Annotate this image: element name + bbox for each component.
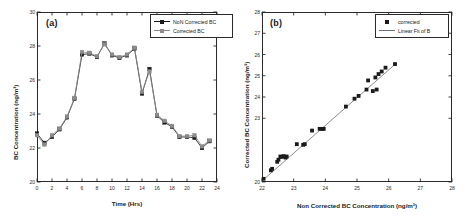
panel-b-x-axis-title: Non Corrected BC Concentration (ng/m³) [257, 202, 457, 209]
line-square-marker-gray-icon [154, 27, 170, 35]
x-tick-label: 4 [60, 185, 74, 191]
y-tick-label: 28 [246, 9, 260, 15]
y-tick-label: 26 [246, 52, 260, 58]
legend-item: corrected [379, 17, 445, 26]
legend-item: Linear Fit of B [379, 26, 445, 35]
x-tick-label: 27 [413, 185, 427, 191]
x-tick-label: 6 [75, 185, 89, 191]
x-tick-label: 2 [45, 185, 59, 191]
y-tick-label: 27 [246, 30, 260, 36]
panel-b-y-axis-title: Corrected BC Concentration (ng/m³) [243, 62, 250, 168]
line-square-marker-dark-icon [154, 18, 170, 26]
panel-a-legend: NoN Corrected BC Corrected BC [150, 14, 233, 38]
x-tick-label: 18 [165, 185, 179, 191]
line-icon [379, 27, 395, 35]
panel-b-legend: corrected Linear Fit of B [375, 14, 449, 38]
x-tick-label: 14 [135, 185, 149, 191]
y-tick-label: 28 [21, 43, 35, 49]
panel-a: (a) 024681012141618202224202224262830 Ti… [0, 0, 235, 220]
x-tick-label: 16 [150, 185, 164, 191]
panel-b: (b) 2223242526272820232425262728 Non Cor… [235, 0, 470, 220]
x-tick-label: 22 [195, 185, 209, 191]
x-tick-label: 23 [287, 185, 301, 191]
x-tick-label: 0 [30, 185, 44, 191]
y-tick-label: 22 [21, 145, 35, 151]
x-tick-label: 28 [445, 185, 459, 191]
x-tick-label: 24 [210, 185, 224, 191]
y-tick-label: 24 [21, 111, 35, 117]
figure: (a) 024681012141618202224202224262830 Ti… [0, 0, 470, 220]
y-tick-label: 20 [21, 179, 35, 185]
legend-label: Corrected BC [173, 28, 204, 34]
x-tick-label: 25 [350, 185, 364, 191]
x-tick-label: 8 [90, 185, 104, 191]
legend-label: NoN Corrected BC [173, 19, 216, 25]
x-tick-label: 12 [120, 185, 134, 191]
legend-label: corrected [398, 19, 420, 25]
x-tick-label: 20 [180, 185, 194, 191]
y-tick-label: 20 [246, 179, 260, 185]
x-tick-label: 26 [382, 185, 396, 191]
square-marker-icon [379, 18, 395, 26]
y-tick-label: 26 [21, 77, 35, 83]
y-tick-label: 30 [21, 9, 35, 15]
legend-item: NoN Corrected BC [154, 17, 229, 26]
legend-label: Linear Fit of B [398, 28, 430, 34]
x-tick-label: 10 [105, 185, 119, 191]
panel-a-y-axis-title: BC Concentration (ng/m³) [12, 85, 19, 160]
legend-item: Corrected BC [154, 26, 229, 35]
x-tick-label: 24 [318, 185, 332, 191]
x-tick-label: 22 [255, 185, 269, 191]
panel-a-x-axis-title: Time (Hrs) [27, 200, 227, 207]
